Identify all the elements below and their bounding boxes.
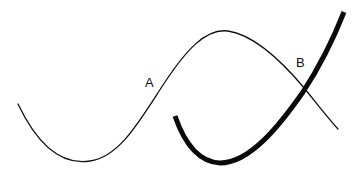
label-a: A xyxy=(145,75,154,90)
thick-curve xyxy=(175,12,344,163)
label-b: B xyxy=(296,55,305,70)
thin-curve xyxy=(18,31,338,162)
curves-svg xyxy=(0,0,356,174)
diagram-canvas: A B xyxy=(0,0,356,174)
